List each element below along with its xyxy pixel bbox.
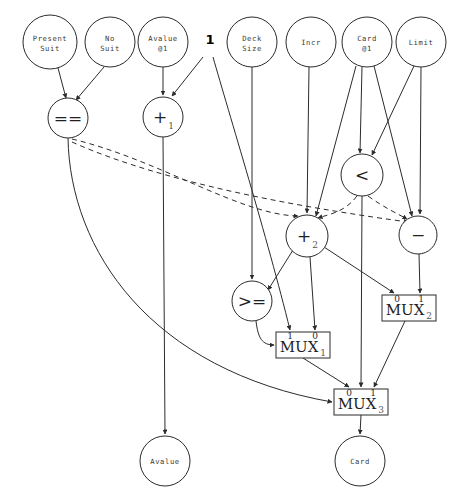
input-node-label: Deck <box>242 34 262 43</box>
edges-layer <box>58 57 421 434</box>
input-node-limit[interactable]: Limit <box>396 17 446 67</box>
operator-symbol: >= <box>238 291 267 311</box>
edge-mux2-to-mux3 <box>374 321 405 387</box>
input-node-label: Card <box>357 34 377 43</box>
mux-subscript: 2 <box>426 311 432 321</box>
edge-card_at1-to-minus <box>374 66 412 216</box>
edge-mux1-to-mux3 <box>303 358 349 387</box>
operator-subscript: 1 <box>168 121 174 131</box>
mux-node-mux2[interactable]: MUX201 <box>382 294 436 321</box>
input-node-sublabel: Suit <box>40 44 60 53</box>
input-node-label: Limit <box>409 38 434 47</box>
constant-label-const_one: 1 <box>205 32 214 47</box>
output-node-label: Avalue <box>150 457 180 466</box>
input-node-avalue_at1[interactable]: Avalue@1 <box>138 17 188 67</box>
input-node-label: No <box>105 34 115 43</box>
mux-port-label: 1 <box>418 294 424 304</box>
edge-mux3-to-out_card <box>360 415 361 434</box>
edge-present_suit-to-eq <box>58 68 66 98</box>
mux-port-label: 1 <box>287 331 293 341</box>
operator-node-eq[interactable]: == <box>48 98 88 138</box>
operator-symbol: − <box>411 225 425 245</box>
operator-node-less[interactable]: < <box>341 154 383 196</box>
input-node-sublabel: @1 <box>158 44 168 53</box>
input-node-label: Avalue <box>148 34 178 43</box>
edge-card_at1-to-plus2 <box>316 66 356 216</box>
operator-node-plus1[interactable]: +1 <box>143 97 183 137</box>
edge-plus2-to-mux1 <box>310 257 315 330</box>
nodes-layer: PresentSuitNoSuitAvalue@1DeckSizeIncrCar… <box>23 15 446 486</box>
input-node-label: Present <box>33 34 68 43</box>
input-node-present_suit[interactable]: PresentSuit <box>23 15 77 69</box>
operator-subscript: 2 <box>312 240 318 250</box>
edge-card_at1-to-less <box>360 67 362 153</box>
edge-incr-to-plus2 <box>307 67 309 213</box>
input-node-sublabel: Size <box>242 44 262 53</box>
input-node-card_at1[interactable]: Card@1 <box>342 17 392 67</box>
operator-symbol: < <box>355 165 369 185</box>
edge-plus2-to-gte <box>268 250 293 290</box>
mux-port-label: 0 <box>394 294 400 304</box>
operator-symbol: == <box>54 108 83 128</box>
edge-plus2-to-mux2 <box>324 247 394 293</box>
input-node-deck_size[interactable]: DeckSize <box>227 17 277 67</box>
diagram-canvas: PresentSuitNoSuitAvalue@1DeckSizeIncrCar… <box>0 0 460 503</box>
dataflow-diagram-svg: PresentSuitNoSuitAvalue@1DeckSizeIncrCar… <box>0 0 460 503</box>
mux-port-label: 0 <box>346 388 352 398</box>
operator-symbol: + <box>153 107 167 127</box>
edge-less-to-mux3 <box>361 196 362 387</box>
edge-less-to-minus <box>368 196 407 219</box>
edge-eq-to-mux3 <box>68 138 332 402</box>
mux-node-mux3[interactable]: MUX301 <box>334 388 388 415</box>
edge-limit-to-minus <box>420 67 421 214</box>
edge-gte-to-mux1 <box>256 321 274 345</box>
mux-subscript: 1 <box>320 348 326 358</box>
mux-port-label: 1 <box>370 388 376 398</box>
edge-plus1-to-out_avalue <box>163 137 165 434</box>
output-node-out_card[interactable]: Card <box>335 436 385 486</box>
mux-node-mux1[interactable]: MUX110 <box>276 331 330 358</box>
operator-node-minus[interactable]: − <box>399 216 437 254</box>
input-node-sublabel: Suit <box>100 44 120 53</box>
output-node-out_avalue[interactable]: Avalue <box>140 436 190 486</box>
edge-eq-to-plus2 <box>72 139 298 216</box>
edge-minus-to-mux2 <box>419 254 420 293</box>
input-node-label: Incr <box>301 38 321 47</box>
edge-no_suit-to-eq <box>76 67 104 100</box>
operator-symbol: + <box>297 226 311 246</box>
mux-subscript: 3 <box>378 405 384 415</box>
operator-node-gte[interactable]: >= <box>232 281 272 321</box>
input-node-no_suit[interactable]: NoSuit <box>85 17 135 67</box>
mux-port-label: 0 <box>312 331 318 341</box>
output-node-label: Card <box>350 457 370 466</box>
input-node-sublabel: @1 <box>362 44 372 53</box>
edge-less-to-plus2 <box>318 196 357 218</box>
operator-node-plus2[interactable]: +2 <box>286 215 328 257</box>
input-node-incr[interactable]: Incr <box>286 17 336 67</box>
